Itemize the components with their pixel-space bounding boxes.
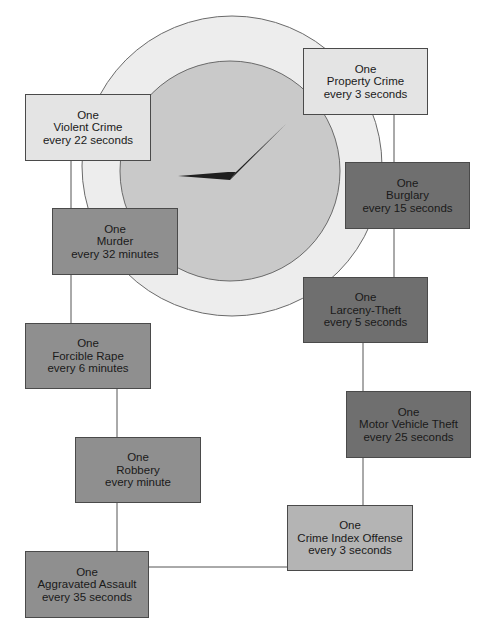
box-line1: One xyxy=(127,451,149,464)
box-line1: One xyxy=(77,337,99,350)
box-frequency: every 35 seconds xyxy=(42,591,132,604)
box-crime-type: Robbery xyxy=(116,464,159,477)
box-crime-type: Forcible Rape xyxy=(52,350,124,363)
box-line1: One xyxy=(104,223,126,236)
box-crime-type: Property Crime xyxy=(327,75,404,88)
box-frequency: every 15 seconds xyxy=(362,202,452,215)
box-frequency: every 25 seconds xyxy=(363,431,453,444)
motor-vehicle-theft-box: One Motor Vehicle Theft every 25 seconds xyxy=(346,391,471,458)
box-line1: One xyxy=(76,566,98,579)
burglary-box: One Burglary every 15 seconds xyxy=(345,162,470,229)
larceny-theft-box: One Larceny-Theft every 5 seconds xyxy=(303,277,428,343)
box-line1: One xyxy=(397,177,419,190)
box-crime-type: Burglary xyxy=(386,189,429,202)
robbery-box: One Robbery every minute xyxy=(75,437,201,503)
box-frequency: every 3 seconds xyxy=(324,88,408,101)
box-frequency: every 22 seconds xyxy=(43,134,133,147)
box-crime-type: Aggravated Assault xyxy=(37,578,136,591)
box-frequency: every 5 seconds xyxy=(324,316,408,329)
forcible-rape-box: One Forcible Rape every 6 minutes xyxy=(25,323,151,389)
box-line1: One xyxy=(339,519,361,532)
box-frequency: every minute xyxy=(105,476,171,489)
box-crime-type: Violent Crime xyxy=(54,121,123,134)
crime-index-offense-box: One Crime Index Offense every 3 seconds xyxy=(287,505,413,571)
box-crime-type: Motor Vehicle Theft xyxy=(359,418,458,431)
box-crime-type: Larceny-Theft xyxy=(330,304,401,317)
aggravated-assault-box: One Aggravated Assault every 35 seconds xyxy=(25,551,149,618)
box-crime-type: Crime Index Offense xyxy=(297,532,402,545)
box-frequency: every 6 minutes xyxy=(47,362,128,375)
crime-clock-diagram: One Property Crime every 3 seconds One V… xyxy=(0,0,490,638)
murder-box: One Murder every 32 minutes xyxy=(52,208,178,275)
box-line1: One xyxy=(355,291,377,304)
box-line1: One xyxy=(77,109,99,122)
box-crime-type: Murder xyxy=(97,235,133,248)
box-line1: One xyxy=(355,63,377,76)
property-crime-box: One Property Crime every 3 seconds xyxy=(303,48,428,115)
box-frequency: every 3 seconds xyxy=(308,544,392,557)
violent-crime-box: One Violent Crime every 22 seconds xyxy=(25,94,151,161)
box-line1: One xyxy=(398,406,420,419)
box-frequency: every 32 minutes xyxy=(71,248,159,261)
